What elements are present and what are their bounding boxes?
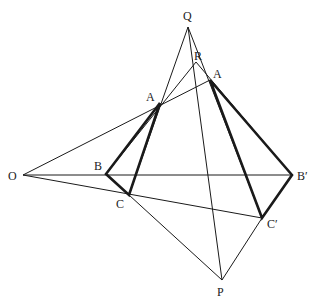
label-B: B xyxy=(94,159,102,173)
label-B-prime: B′ xyxy=(297,169,308,183)
label-O: O xyxy=(8,169,17,183)
label-P: P xyxy=(217,285,224,299)
line-C-P xyxy=(129,195,222,280)
label-C: C xyxy=(116,197,124,211)
label-C-prime: C′ xyxy=(267,217,278,231)
line-O-C-Cprime xyxy=(23,175,262,218)
label-R: R xyxy=(194,49,202,63)
label-A-right: A xyxy=(213,67,222,81)
label-Q: Q xyxy=(183,9,192,23)
thick-triangles xyxy=(106,80,292,218)
desargues-diagram: Q R A A O B B′ C C′ P xyxy=(0,0,317,302)
line-Cprime-P xyxy=(222,218,262,280)
triangle-AprimeBprimeCprime xyxy=(210,80,292,218)
diagram-canvas: Q R A A O B B′ C C′ P xyxy=(0,0,317,302)
thin-lines xyxy=(23,27,292,280)
point-labels: Q R A A O B B′ C C′ P xyxy=(8,9,308,299)
label-A-left: A xyxy=(146,90,155,104)
